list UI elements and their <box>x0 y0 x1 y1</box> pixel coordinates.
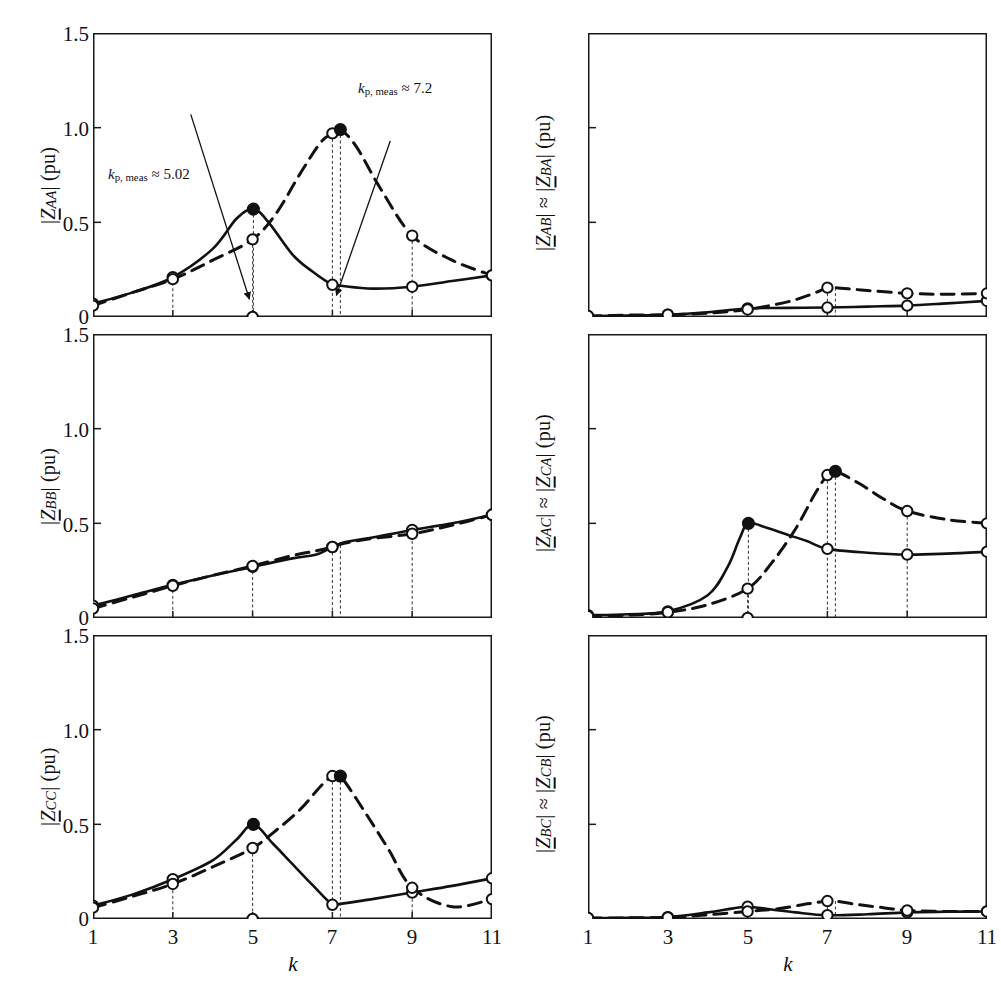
ytick-zcc-15: 1.5 <box>45 624 89 649</box>
annotation-leader-line <box>336 141 390 296</box>
panel-zcc <box>93 635 492 919</box>
data-point-open <box>168 274 178 284</box>
xtick-right-3: 3 <box>648 925 688 950</box>
data-point-open <box>487 894 492 904</box>
ytick-zcc-05: 0.5 <box>45 814 89 839</box>
data-point-open <box>663 310 673 317</box>
data-point-open <box>327 280 337 290</box>
data-point-open <box>742 906 752 916</box>
data-point-open <box>982 518 987 528</box>
data-point-open <box>407 883 417 893</box>
xtick-right-11: 11 <box>967 925 1001 950</box>
ylabel-zab: |ZAB| ≈ |ZBA| (pu) <box>533 60 554 305</box>
series-solid <box>588 523 987 615</box>
xtick-right-1: 1 <box>568 925 608 950</box>
series-dashed <box>588 287 987 316</box>
xtick-left-5: 5 <box>233 925 273 950</box>
annotation-kp-72: kp, meas ≈ 7.2 <box>358 80 432 97</box>
series-dashed <box>588 901 987 918</box>
ytick-zaa-15: 1.5 <box>45 22 89 47</box>
xtick-right-7: 7 <box>807 925 847 950</box>
data-point-open <box>407 282 417 292</box>
data-point-open <box>822 910 832 919</box>
series-dashed <box>93 515 492 609</box>
xtick-right-9: 9 <box>887 925 927 950</box>
ylabel-zbc: |ZBC| ≈ |ZCB| (pu) <box>533 662 554 907</box>
data-point-open <box>93 603 98 613</box>
data-point-open <box>663 912 673 919</box>
data-point-open <box>247 561 257 571</box>
data-point-open <box>487 510 492 520</box>
ytick-zbb-10: 1.0 <box>45 418 89 443</box>
xtick-left-1: 1 <box>73 925 113 950</box>
series-solid <box>93 824 492 906</box>
data-point-open <box>982 906 987 916</box>
data-point-open <box>168 879 178 889</box>
xtick-left-3: 3 <box>153 925 193 950</box>
data-point-open <box>247 234 257 244</box>
ytick-zaa-10: 1.0 <box>45 117 89 142</box>
panel-zbb <box>93 334 492 618</box>
data-point-filled <box>248 203 260 215</box>
series-dashed <box>588 471 987 616</box>
data-point-open <box>822 282 832 292</box>
data-point-open <box>663 607 673 617</box>
data-point-filled <box>743 518 755 530</box>
data-point-open <box>327 542 337 552</box>
data-point-open <box>902 300 912 310</box>
annotation-leader-line <box>191 114 250 299</box>
xtick-left-11: 11 <box>472 925 512 950</box>
chart-zbc <box>588 635 987 919</box>
chart-zac <box>588 334 987 618</box>
panel-zab <box>588 33 987 317</box>
ytick-zaa-05: 0.5 <box>45 212 89 237</box>
data-point-open <box>822 302 832 312</box>
data-point-open <box>247 843 257 853</box>
data-point-open <box>822 896 832 906</box>
xtick-left-7: 7 <box>312 925 352 950</box>
xaxis-title-left: k <box>273 952 313 977</box>
chart-zab <box>588 33 987 317</box>
series-solid <box>93 209 492 304</box>
xtick-left-9: 9 <box>392 925 432 950</box>
data-point-open <box>407 529 417 539</box>
data-point-open <box>407 230 417 240</box>
data-point-open <box>902 549 912 559</box>
data-point-open <box>588 611 593 618</box>
data-point-open <box>742 583 752 593</box>
data-point-open <box>247 914 257 919</box>
data-point-open <box>588 311 593 317</box>
data-point-filled <box>248 819 260 831</box>
panel-zbc <box>588 635 987 919</box>
series-dashed <box>93 129 492 306</box>
data-point-open <box>487 270 492 280</box>
data-point-open <box>168 581 178 591</box>
ylabel-zac: |ZAC| ≈ |ZCA| (pu) <box>533 361 554 606</box>
data-point-open <box>742 613 752 618</box>
data-point-open <box>327 900 337 910</box>
data-point-filled <box>335 124 347 136</box>
data-point-open <box>902 506 912 516</box>
data-point-filled <box>830 465 842 477</box>
ytick-zcc-10: 1.0 <box>45 719 89 744</box>
data-point-open <box>982 288 987 298</box>
chart-zbb <box>93 334 492 618</box>
data-point-open <box>902 288 912 298</box>
xaxis-title-right: k <box>768 952 808 977</box>
panel-zac <box>588 334 987 618</box>
data-point-open <box>588 913 593 919</box>
data-point-open <box>742 304 752 314</box>
data-point-open <box>822 544 832 554</box>
data-point-open <box>247 312 257 317</box>
annotation-kp-502: kp, meas ≈ 5.02 <box>108 166 190 183</box>
data-point-open <box>982 547 987 557</box>
data-point-open <box>93 902 98 912</box>
ytick-zbb-15: 1.5 <box>45 323 89 348</box>
chart-zcc <box>93 635 492 919</box>
data-point-open <box>93 300 98 310</box>
ytick-zbb-05: 0.5 <box>45 513 89 538</box>
data-point-open <box>902 905 912 915</box>
data-point-filled <box>335 770 347 782</box>
data-point-open <box>487 873 492 883</box>
